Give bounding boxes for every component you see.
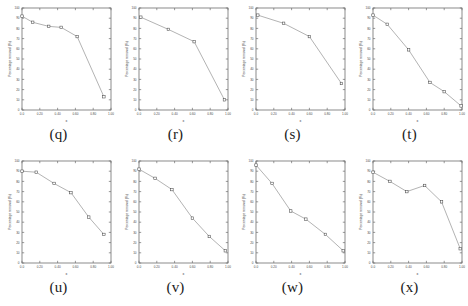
- y-tick-label: 10: [367, 251, 371, 255]
- chart-svg: 0.00.200.400.600.801.0001020304050607080…: [117, 153, 234, 285]
- data-point-marker: [103, 95, 106, 98]
- y-tick-label: 90: [133, 16, 137, 20]
- y-axis-title: Percentage removal (%): [125, 41, 129, 77]
- y-tick-label: 50: [250, 57, 254, 61]
- x-axis-title: x: [417, 119, 419, 123]
- y-tick-label: 70: [16, 190, 20, 194]
- x-tick-label: 0.40: [289, 265, 295, 269]
- chart-panel-v: 0.00.200.400.600.801.0001020304050607080…: [117, 153, 234, 306]
- x-tick-label: 1.00: [108, 112, 114, 116]
- x-axis-title: x: [66, 119, 68, 123]
- data-point-marker: [407, 49, 410, 52]
- y-tick-label: 40: [16, 67, 20, 71]
- x-tick-label: 0.80: [207, 265, 213, 269]
- data-point-marker: [255, 164, 258, 167]
- y-tick-label: 40: [367, 220, 371, 224]
- x-axis-title: x: [417, 272, 419, 276]
- y-tick-label: 20: [367, 88, 371, 92]
- y-tick-label: 90: [250, 16, 254, 20]
- plot-area: 0.00.200.400.600.801.0001020304050607080…: [351, 0, 468, 132]
- axis-frame: [139, 8, 228, 110]
- chart-svg: 0.00.200.400.600.801.0001020304050607080…: [351, 0, 468, 132]
- y-tick-label: 50: [133, 57, 137, 61]
- x-tick-label: 0.20: [154, 265, 160, 269]
- y-tick-label: 40: [250, 67, 254, 71]
- y-tick-label: 20: [133, 241, 137, 245]
- axis-frame: [256, 8, 345, 110]
- y-tick-label: 60: [250, 47, 254, 51]
- y-axis-title: Percentage removal (%): [8, 41, 12, 77]
- y-tick-label: 80: [367, 27, 371, 31]
- y-tick-label: 40: [367, 67, 371, 71]
- x-tick-label: 0.40: [172, 112, 178, 116]
- y-tick-label: 100: [248, 6, 253, 10]
- y-axis-title: Percentage removal (%): [242, 41, 246, 77]
- x-axis-title: x: [66, 272, 68, 276]
- y-tick-label: 60: [367, 200, 371, 204]
- data-series-line: [256, 165, 343, 251]
- x-tick-label: 1.00: [459, 265, 465, 269]
- x-tick-label: 0.20: [388, 265, 394, 269]
- chart-svg: 0.00.200.400.600.801.0001020304050607080…: [351, 153, 468, 285]
- x-tick-label: 0.0: [20, 265, 25, 269]
- data-point-marker: [305, 218, 308, 221]
- data-point-marker: [167, 28, 170, 31]
- plot-area: 0.00.200.400.600.801.0001020304050607080…: [117, 0, 234, 132]
- x-tick-label: 1.00: [342, 265, 348, 269]
- data-point-marker: [193, 40, 196, 43]
- chart-panel-q: 0.00.200.400.600.801.0001020304050607080…: [0, 0, 117, 153]
- x-tick-label: 0.20: [37, 265, 43, 269]
- y-tick-label: 50: [16, 57, 20, 61]
- data-point-marker: [459, 247, 462, 250]
- data-point-marker: [257, 14, 260, 16]
- data-point-marker: [88, 216, 91, 219]
- y-tick-label: 40: [16, 220, 20, 224]
- data-point-marker: [223, 99, 226, 102]
- y-tick-label: 20: [250, 88, 254, 92]
- data-point-marker: [191, 217, 194, 220]
- y-tick-label: 10: [250, 251, 254, 255]
- data-point-marker: [224, 250, 227, 253]
- chart-svg: 0.00.200.400.600.801.0001020304050607080…: [234, 0, 351, 132]
- panel-caption: (w): [234, 279, 351, 296]
- y-tick-label: 70: [250, 190, 254, 194]
- y-tick-label: 80: [16, 27, 20, 31]
- data-point-marker: [140, 16, 143, 19]
- chart-svg: 0.00.200.400.600.801.0001020304050607080…: [117, 0, 234, 132]
- panel-caption: (v): [117, 279, 234, 296]
- y-tick-label: 0: [18, 108, 20, 112]
- y-tick-label: 80: [133, 27, 137, 31]
- y-tick-label: 0: [252, 261, 254, 265]
- x-tick-label: 0.60: [72, 265, 78, 269]
- data-point-marker: [386, 23, 389, 26]
- data-point-marker: [282, 22, 285, 25]
- panel-caption: (s): [234, 126, 351, 143]
- chart-panel-x: 0.00.200.400.600.801.0001020304050607080…: [351, 153, 468, 306]
- chart-panel-s: 0.00.200.400.600.801.0001020304050607080…: [234, 0, 351, 153]
- plot-area: 0.00.200.400.600.801.0001020304050607080…: [234, 0, 351, 132]
- data-point-marker: [389, 180, 392, 183]
- y-tick-label: 50: [250, 210, 254, 214]
- data-point-marker: [324, 233, 327, 236]
- x-tick-label: 0.0: [137, 112, 142, 116]
- y-tick-label: 50: [16, 210, 20, 214]
- panel-caption: (r): [117, 126, 234, 143]
- x-tick-label: 0.0: [254, 265, 259, 269]
- data-point-marker: [443, 90, 446, 93]
- data-point-marker: [70, 191, 73, 194]
- y-tick-label: 70: [250, 37, 254, 41]
- data-point-marker: [271, 182, 274, 185]
- x-tick-label: 0.0: [371, 265, 376, 269]
- x-tick-label: 0.0: [254, 112, 259, 116]
- plot-area: 0.00.200.400.600.801.0001020304050607080…: [351, 153, 468, 285]
- y-axis-title: Percentage removal (%): [359, 41, 363, 77]
- x-tick-label: 0.20: [271, 265, 277, 269]
- plot-area: 0.00.200.400.600.801.0001020304050607080…: [0, 0, 117, 132]
- data-point-marker: [31, 21, 34, 24]
- x-tick-label: 0.40: [55, 265, 61, 269]
- axis-frame: [22, 8, 111, 110]
- x-tick-label: 0.60: [72, 112, 78, 116]
- y-axis-title: Percentage removal (%): [125, 194, 129, 230]
- x-tick-label: 0.40: [172, 265, 178, 269]
- y-tick-label: 70: [16, 37, 20, 41]
